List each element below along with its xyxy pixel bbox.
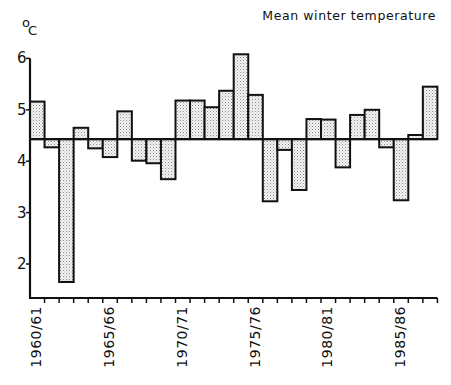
bar-1967-68 <box>132 139 147 161</box>
bar-1969-70 <box>161 139 176 179</box>
bars-group <box>30 54 437 282</box>
bar-1980-81 <box>321 120 336 140</box>
unit-letter: C <box>28 23 37 38</box>
bar-1962-63 <box>59 139 74 282</box>
bar-1975-76 <box>248 95 263 139</box>
bar-1961-62 <box>45 139 60 147</box>
chart-title: Mean winter temperature <box>262 8 436 23</box>
bar-1960-61 <box>30 102 45 140</box>
bar-1973-74 <box>219 91 234 139</box>
bar-1965-66 <box>103 139 118 157</box>
y-tick-label: 4 <box>17 152 27 170</box>
y-axis-unit-label: o C <box>22 15 37 38</box>
y-axis: 23456 <box>17 49 30 298</box>
x-tick-label: 1985/86 <box>392 306 408 368</box>
x-tick-label: 1980/81 <box>319 306 335 368</box>
bar-1972-73 <box>205 107 220 139</box>
y-tick-label: 3 <box>17 204 27 222</box>
bar-1976-77 <box>263 139 278 201</box>
bar-1985-86 <box>394 139 409 200</box>
x-axis: 1960/611965/661970/711975/761980/811985/… <box>28 298 437 368</box>
x-tick-label: 1960/61 <box>28 306 44 368</box>
bar-1970-71 <box>176 101 191 140</box>
bar-1978-79 <box>292 139 307 190</box>
bar-1974-75 <box>234 54 249 139</box>
bar-1984-85 <box>379 139 394 147</box>
bar-1987-88 <box>423 87 438 139</box>
x-tick-label: 1975/76 <box>247 306 263 368</box>
bar-1981-82 <box>336 139 351 167</box>
y-tick-label: 2 <box>17 255 27 273</box>
bar-1983-84 <box>365 110 380 139</box>
bar-1968-69 <box>146 139 161 163</box>
y-tick-label: 6 <box>17 49 27 67</box>
bar-1982-83 <box>350 115 365 139</box>
mean-winter-temperature-chart: Mean winter temperature o C 23456 1960/6… <box>0 0 451 385</box>
bar-1971-72 <box>190 101 205 140</box>
bar-1963-64 <box>74 128 89 139</box>
bar-1977-78 <box>277 139 292 150</box>
bar-1979-80 <box>306 119 321 139</box>
y-tick-label: 5 <box>17 101 27 119</box>
x-tick-label: 1965/66 <box>101 306 117 368</box>
bar-1966-67 <box>117 111 132 139</box>
x-tick-label: 1970/71 <box>174 306 190 368</box>
bar-1964-65 <box>88 139 103 148</box>
